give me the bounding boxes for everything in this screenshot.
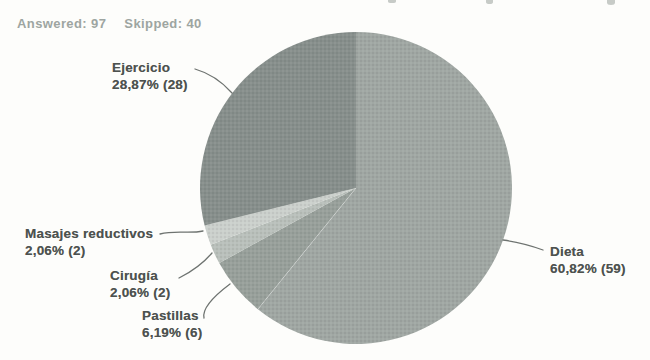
callout-masajes-reductivos: Masajes reductivos 2,06% (2): [25, 226, 153, 259]
leader-line-cirugia: [179, 253, 212, 278]
survey-chart-page: Answered: 97 Skipped: 40: [0, 0, 650, 360]
leader-line-pastillas: [204, 284, 230, 318]
callout-label: Masajes reductivos: [25, 226, 153, 243]
callout-label: Dieta: [550, 244, 626, 261]
callout-dieta: Dieta 60,82% (59): [550, 244, 626, 277]
callout-cirugia: Cirugía 2,06% (2): [110, 268, 170, 301]
pie-chart: [0, 0, 650, 360]
callout-label: Cirugía: [110, 268, 170, 285]
callout-value: 2,06% (2): [110, 285, 170, 302]
callout-label: Pastillas: [142, 308, 202, 325]
leader-line-masajes: [160, 231, 203, 234]
callout-ejercicio: Ejercicio 28,87% (28): [112, 60, 188, 93]
leader-line-dieta: [503, 240, 543, 250]
callout-value: 6,19% (6): [142, 325, 202, 342]
callout-value: 60,82% (59): [550, 261, 626, 278]
callout-value: 2,06% (2): [25, 243, 153, 260]
callout-pastillas: Pastillas 6,19% (6): [142, 308, 202, 341]
leader-line-ejercicio: [195, 69, 232, 93]
callout-value: 28,87% (28): [112, 77, 188, 94]
callout-label: Ejercicio: [112, 60, 188, 77]
halftone-texture: [200, 32, 512, 344]
